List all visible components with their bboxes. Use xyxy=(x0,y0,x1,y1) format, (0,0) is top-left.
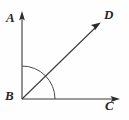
ray-BA xyxy=(19,11,25,99)
ray-BD-arrowhead-icon xyxy=(91,22,101,30)
vertex-label-b: B xyxy=(5,89,14,102)
ray-BD-line xyxy=(22,27,96,99)
ray-BD xyxy=(22,22,101,99)
vertex-label-a: A xyxy=(6,11,15,24)
vertex-label-c: C xyxy=(105,99,114,112)
geometry-angle-diagram: A D B C xyxy=(0,0,129,120)
vertex-label-d: D xyxy=(104,8,113,21)
